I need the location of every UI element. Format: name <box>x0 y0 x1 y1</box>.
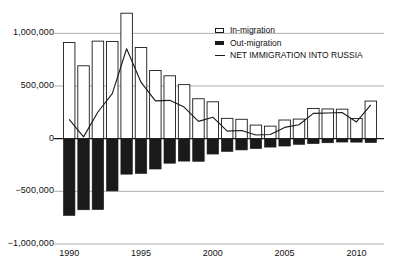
out-migration-bar <box>293 139 304 145</box>
line-marker-icon <box>214 50 225 61</box>
in-migration-bar <box>150 71 161 139</box>
out-migration-bar <box>221 139 232 152</box>
out-migration-bars <box>63 139 376 216</box>
out-migration-bar <box>121 139 132 175</box>
x-axis-tick-label: 2005 <box>265 248 305 258</box>
open-rect-icon <box>214 25 225 36</box>
out-migration-bar <box>164 139 175 164</box>
out-migration-bar <box>63 139 74 216</box>
out-migration-bar <box>92 139 103 210</box>
in-migration-bar <box>92 41 103 139</box>
out-migration-bar <box>265 139 276 147</box>
out-migration-bar <box>236 139 247 150</box>
out-migration-bar <box>336 139 347 142</box>
chart-legend: In-migration Out-migration NET IMMIGRATI… <box>214 24 363 62</box>
in-migration-bar <box>193 99 204 139</box>
y-axis-tick-label: −1,000,000 <box>0 238 54 248</box>
legend-label: NET IMMIGRATION INTO RUSSIA <box>230 49 363 62</box>
in-migration-bar <box>135 47 146 138</box>
legend-label: In-migration <box>230 24 275 37</box>
out-migration-bar <box>351 139 362 142</box>
out-migration-bar <box>308 139 319 144</box>
in-migration-bar <box>365 101 376 139</box>
out-migration-bar <box>78 139 89 210</box>
filled-rect-icon <box>214 37 225 48</box>
x-axis-tick-label: 2010 <box>337 248 377 258</box>
legend-item-net-immigration: NET IMMIGRATION INTO RUSSIA <box>214 49 363 62</box>
in-migration-bar <box>207 102 218 139</box>
in-migration-bar <box>221 118 232 138</box>
out-migration-bar <box>279 139 290 146</box>
out-migration-bar <box>135 139 146 174</box>
in-migration-bar <box>121 13 132 138</box>
in-migration-bar <box>250 125 261 139</box>
out-migration-bar <box>107 139 118 191</box>
x-axis-tick-label: 1995 <box>121 248 161 258</box>
y-axis-tick-label: 500,000 <box>0 80 54 90</box>
out-migration-bar <box>178 139 189 161</box>
in-migration-bar <box>236 119 247 138</box>
x-axis-tick-label: 1990 <box>49 248 89 258</box>
out-migration-bar <box>250 139 261 149</box>
out-migration-bar <box>322 139 333 143</box>
out-migration-bar <box>365 139 376 143</box>
out-migration-bar <box>193 139 204 162</box>
y-axis-tick-label: 0 <box>0 133 54 143</box>
migration-chart: 1,000,000500,0000−500,000−1,000,000 1990… <box>0 0 402 267</box>
y-axis-tick-label: 1,000,000 <box>0 27 54 37</box>
in-migration-bar <box>107 41 118 138</box>
out-migration-bar <box>150 139 161 169</box>
legend-item-out-migration: Out-migration <box>214 37 363 50</box>
in-migration-bar <box>164 76 175 139</box>
in-migration-bar <box>336 109 347 138</box>
x-axis-tick-label: 2000 <box>193 248 233 258</box>
y-axis-tick-label: −500,000 <box>0 185 54 195</box>
out-migration-bar <box>207 139 218 154</box>
in-migration-bar <box>78 66 89 139</box>
legend-label: Out-migration <box>230 37 282 50</box>
legend-item-in-migration: In-migration <box>214 24 363 37</box>
